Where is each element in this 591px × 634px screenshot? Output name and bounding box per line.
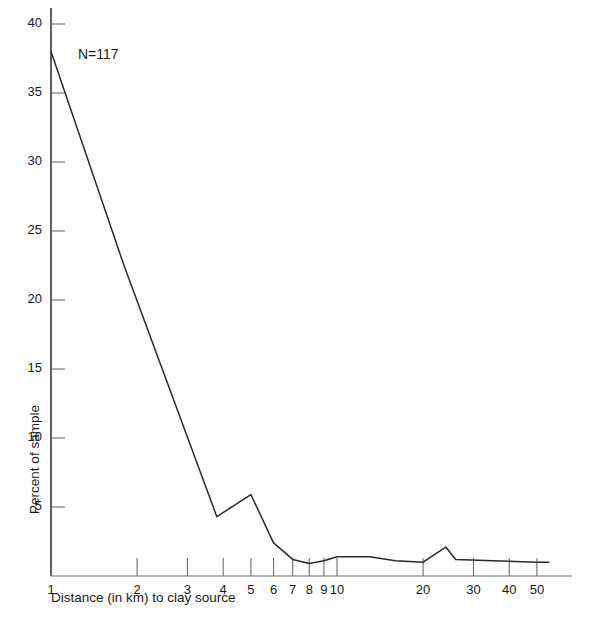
y-axis-title: Percent of sample bbox=[27, 360, 42, 560]
x-axis-tick-label: 20 bbox=[403, 582, 443, 597]
sample-size-annotation: N=117 bbox=[78, 46, 119, 62]
y-axis-tick-label: 35 bbox=[2, 84, 42, 99]
chart-figure: 510152025303540 1234567891020304050 N=11… bbox=[0, 0, 591, 634]
y-axis-tick-label: 20 bbox=[2, 291, 42, 306]
y-axis-tick-label: 40 bbox=[2, 15, 42, 30]
x-axis-tick-label: 30 bbox=[453, 582, 493, 597]
plot-area bbox=[0, 0, 591, 634]
x-axis-tick-label: 10 bbox=[317, 582, 357, 597]
y-axis-ticks bbox=[51, 24, 65, 507]
data-series-line bbox=[51, 52, 549, 564]
x-axis-tick-label: 50 bbox=[517, 582, 557, 597]
axes bbox=[51, 8, 572, 576]
y-axis-tick-label: 25 bbox=[2, 222, 42, 237]
y-axis-tick-label: 30 bbox=[2, 153, 42, 168]
x-axis-title: Distance (in km) to clay source bbox=[51, 590, 236, 605]
